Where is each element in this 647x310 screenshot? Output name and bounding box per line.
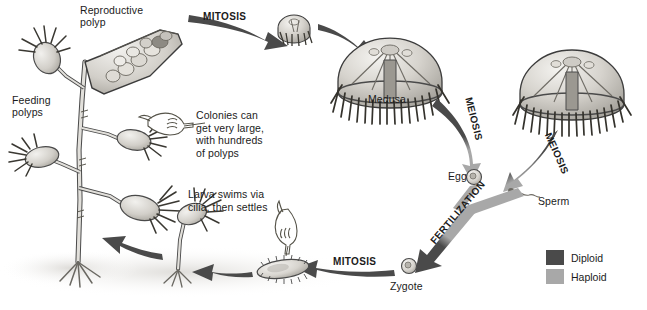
legend-swatch-haploid	[546, 269, 564, 284]
life-cycle-diagram: Reproductive polyp Feeding polyps MITOSI…	[0, 0, 647, 310]
legend: Diploid Haploid	[546, 250, 607, 284]
label-sperm: Sperm	[538, 195, 569, 207]
label-mitosis-top: MITOSIS	[203, 11, 246, 23]
pointing-hand-down-icon	[275, 201, 297, 256]
label-feeding-polyps: Feeding polyps	[12, 94, 51, 118]
feeding-polyp	[9, 134, 61, 176]
note-colony-size: Colonies can get very large, with hundre…	[196, 109, 264, 159]
young-medusa	[278, 15, 312, 46]
legend-item-haploid: Haploid	[546, 269, 607, 284]
feeding-polyp	[118, 186, 180, 233]
note-larva-behavior: Larva swims via cilia, then settles	[188, 188, 268, 213]
legend-swatch-diploid	[546, 250, 564, 265]
label-zygote: Zygote	[390, 280, 423, 292]
reproductive-polyp	[85, 30, 182, 94]
legend-label-diploid: Diploid	[571, 252, 603, 264]
label-reproductive-polyp: Reproductive polyp	[80, 4, 143, 28]
label-mitosis-bottom: MITOSIS	[333, 256, 376, 268]
label-egg: Egg	[448, 170, 467, 182]
legend-item-diploid: Diploid	[546, 250, 607, 265]
legend-label-haploid: Haploid	[571, 271, 607, 283]
zygote-cell	[402, 259, 417, 274]
medusa-adult-left	[331, 38, 449, 124]
medusa-adult-right	[513, 50, 631, 136]
label-medusa: Medusa	[368, 93, 406, 105]
